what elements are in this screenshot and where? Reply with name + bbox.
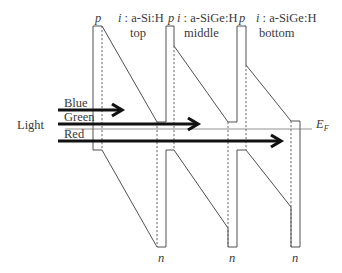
i-material-3: : a-SiGe:H xyxy=(259,11,316,25)
ray-label-red: Red xyxy=(64,127,85,141)
cell-name-bottom: bottom xyxy=(259,26,295,40)
p-label-2: p xyxy=(167,11,174,25)
n-label-1: n xyxy=(158,251,164,265)
ray-label-blue: Blue xyxy=(64,96,88,110)
conduction-band-edge xyxy=(93,26,300,247)
n-label-3: n xyxy=(292,251,298,265)
cell-name-middle: middle xyxy=(184,26,219,40)
i-label-bottom: i : a-SiGe:H xyxy=(256,11,316,25)
i-material-2: : a-SiGe:H xyxy=(180,11,237,25)
fermi-label: EF xyxy=(315,117,329,133)
tandem-cell-band-diagram: p i : a-Si:H top p i : a-SiGe:H middle p… xyxy=(0,0,342,273)
ray-label-green: Green xyxy=(64,110,95,124)
i-material-1: : a-Si:H xyxy=(121,11,163,25)
i-label-middle: i : a-SiGe:H xyxy=(177,11,237,25)
p-label-3: p xyxy=(238,11,245,25)
i-label-top: i : a-Si:H xyxy=(118,11,164,25)
n-label-2: n xyxy=(229,251,235,265)
cell-name-top: top xyxy=(130,26,146,40)
p-label-1: p xyxy=(94,11,101,25)
light-label: Light xyxy=(17,118,45,132)
